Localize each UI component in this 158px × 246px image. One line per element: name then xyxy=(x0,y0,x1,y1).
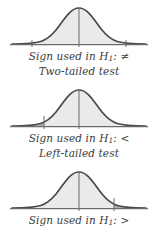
bell-curve-diagram-icon xyxy=(0,0,158,48)
caption-two-tailed: Sign used in H1: ≠ Two-tailed test xyxy=(0,48,158,78)
bell-curve-diagram-icon xyxy=(0,82,158,130)
panel-right-tailed: Sign used in H1: > xyxy=(0,164,158,246)
caption-prefix: Sign used in H xyxy=(29,214,109,226)
caption-line-2: Left-tailed test xyxy=(0,147,158,160)
normal-curve-left-tailed xyxy=(0,82,158,130)
caption-sign: ≠ xyxy=(120,50,129,62)
caption-colon: : xyxy=(113,50,117,62)
caption-line-1: Sign used in H1: ≠ xyxy=(0,50,158,65)
panel-left-tailed: Sign used in H1: < Left-tailed test xyxy=(0,82,158,164)
bell-curve-diagram-icon xyxy=(0,164,158,212)
right-tail-region xyxy=(126,0,158,48)
caption-prefix: Sign used in H xyxy=(29,132,109,144)
caption-line-1: Sign used in H1: > xyxy=(0,214,158,229)
normal-curve-right-tailed xyxy=(0,164,158,212)
caption-line-2: Two-tailed test xyxy=(0,65,158,78)
caption-sign: > xyxy=(120,214,129,226)
normal-curve-two-tailed xyxy=(0,0,158,48)
caption-line-1: Sign used in H1: < xyxy=(0,132,158,147)
right-tail-region xyxy=(114,164,158,212)
left-tail-region xyxy=(0,82,44,130)
caption-right-tailed: Sign used in H1: > xyxy=(0,212,158,229)
caption-prefix: Sign used in H xyxy=(29,50,109,62)
panel-two-tailed: Sign used in H1: ≠ Two-tailed test xyxy=(0,0,158,82)
caption-colon: : xyxy=(113,214,117,226)
left-tail-region xyxy=(0,0,32,48)
caption-sign: < xyxy=(120,132,129,144)
figure-root: Sign used in H1: ≠ Two-tailed test xyxy=(0,0,158,246)
caption-colon: : xyxy=(113,132,117,144)
caption-left-tailed: Sign used in H1: < Left-tailed test xyxy=(0,130,158,160)
